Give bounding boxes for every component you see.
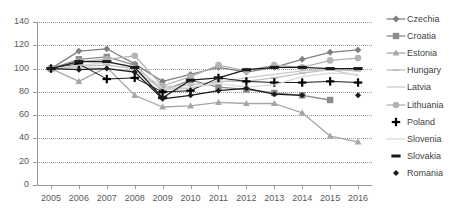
legend-item-hungary[interactable]: Hungary <box>386 62 466 79</box>
legend-marker-plus-icon <box>386 116 406 128</box>
data-point <box>74 60 83 63</box>
legend-marker-dash-icon <box>386 150 406 162</box>
data-point <box>188 92 194 98</box>
data-point <box>298 78 306 86</box>
data-point <box>103 75 111 83</box>
legend-marker-dash-small-icon <box>386 64 406 76</box>
legend-item-lithuania[interactable]: Lithuania <box>386 96 466 113</box>
legend-marker-line-icon <box>386 133 406 145</box>
data-point <box>355 70 362 72</box>
legend-marker-triangle-icon <box>386 47 406 59</box>
legend-item-label: Latvia <box>406 82 431 92</box>
data-point <box>299 56 306 63</box>
legend-item-czechia[interactable]: Czechia <box>386 10 466 27</box>
legend: CzechiaCroatiaEstoniaHungaryLatviaLithua… <box>386 10 466 182</box>
legend-marker-diamond-icon <box>386 13 406 25</box>
data-point <box>102 60 111 63</box>
legend-item-romania[interactable]: Romania <box>386 165 466 182</box>
legend-item-label: Estonia <box>406 48 437 58</box>
legend-item-label: Slovenia <box>406 134 442 144</box>
legend-marker-line-icon <box>386 81 406 93</box>
legend-marker-circle-icon <box>386 99 406 111</box>
data-point <box>187 84 194 86</box>
data-point <box>186 79 195 82</box>
legend-item-label: Czechia <box>406 14 440 24</box>
legend-item-label: Croatia <box>406 31 436 41</box>
data-point <box>215 62 222 69</box>
data-point <box>353 67 362 70</box>
series-estonia <box>48 64 362 145</box>
data-point <box>355 47 362 54</box>
legend-item-poland[interactable]: Poland <box>386 113 466 130</box>
data-point <box>354 78 362 86</box>
legend-item-slovakia[interactable]: Slovakia <box>386 148 466 165</box>
legend-item-label: Romania <box>406 168 443 178</box>
data-point <box>214 76 223 79</box>
data-point <box>103 45 110 52</box>
data-point <box>355 55 362 62</box>
data-point <box>242 68 251 71</box>
legend-item-label: Hungary <box>406 65 441 75</box>
legend-item-label: Lithuania <box>406 100 444 110</box>
data-point <box>327 57 334 64</box>
data-point <box>298 66 307 69</box>
data-point <box>131 52 138 59</box>
data-point <box>326 77 334 85</box>
legend-item-estonia[interactable]: Estonia <box>386 44 466 61</box>
legend-marker-diamond-small-icon <box>386 167 406 179</box>
legend-item-label: Slovakia <box>406 151 441 161</box>
legend-item-latvia[interactable]: Latvia <box>386 79 466 96</box>
data-point <box>327 97 333 103</box>
data-point <box>326 67 335 70</box>
data-point <box>270 66 279 69</box>
data-point <box>75 48 82 55</box>
data-point <box>355 92 361 98</box>
chart-container: 020406080100120140 200520062007200820092… <box>0 0 466 216</box>
data-point <box>299 72 306 74</box>
legend-marker-square-icon <box>386 30 406 42</box>
data-point <box>327 49 334 56</box>
legend-item-label: Poland <box>406 117 435 127</box>
legend-item-slovenia[interactable]: Slovenia <box>386 130 466 147</box>
legend-item-croatia[interactable]: Croatia <box>386 27 466 44</box>
data-point <box>104 66 110 72</box>
data-point <box>130 66 139 69</box>
